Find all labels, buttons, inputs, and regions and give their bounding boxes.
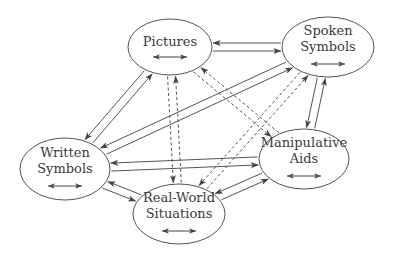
edge-pictures-to-realworld <box>168 76 174 182</box>
edge-written-to-manipulative <box>111 165 258 171</box>
node-label: Real-World <box>143 190 215 205</box>
node-label: Situations <box>146 206 213 221</box>
edge-pictures-to-written <box>85 71 144 140</box>
nodes-layer: PicturesSpokenSymbolsWrittenSymbolsManip… <box>20 17 374 244</box>
edge-manipulative-to-written <box>111 157 258 163</box>
node-label: Pictures <box>143 34 197 49</box>
node-label: Spoken <box>304 23 354 38</box>
node-label: Symbols <box>300 39 356 54</box>
node-manipulative: ManipulativeAids <box>259 129 349 189</box>
edge-manipulative-to-realworld <box>215 173 262 194</box>
edge-realworld-to-pictures <box>176 76 182 182</box>
node-label: Written <box>40 145 90 160</box>
node-label: Aids <box>289 151 319 166</box>
node-pictures: Pictures <box>128 19 212 75</box>
edge-written-to-pictures <box>93 74 152 143</box>
node-spoken: SpokenSymbols <box>282 17 374 77</box>
edge-manipulative-to-spoken <box>315 78 326 128</box>
node-realworld: Real-WorldSituations <box>133 184 225 244</box>
edge-manipulative-to-pictures <box>201 68 279 133</box>
node-label: Symbols <box>37 161 93 176</box>
edge-written-to-realworld <box>102 188 135 201</box>
node-written: WrittenSymbols <box>20 138 110 200</box>
edge-realworld-to-written <box>108 182 142 195</box>
diagram-canvas: PicturesSpokenSymbolsWrittenSymbolsManip… <box>0 0 404 256</box>
representation-translation-diagram: PicturesSpokenSymbolsWrittenSymbolsManip… <box>0 0 404 256</box>
edge-realworld-to-manipulative <box>221 179 268 200</box>
edge-spoken-to-written <box>100 62 286 148</box>
edge-pictures-to-manipulative <box>193 72 271 137</box>
edge-spoken-to-manipulative <box>307 78 318 128</box>
node-label: Manipulative <box>261 135 348 150</box>
